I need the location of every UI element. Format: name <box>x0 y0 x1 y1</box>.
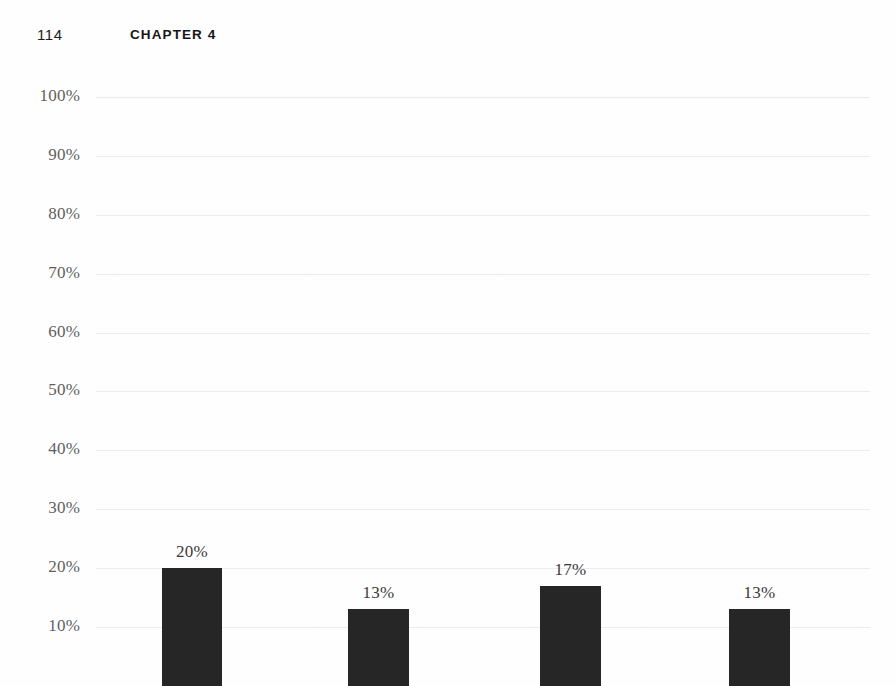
gridline <box>96 509 870 510</box>
bar-value-label: 17% <box>520 560 621 580</box>
bar-value-label: 13% <box>709 583 810 603</box>
gridline <box>96 333 870 334</box>
gridline <box>96 156 870 157</box>
y-axis-tick-label: 10% <box>18 616 80 636</box>
y-axis-tick-label: 80% <box>18 204 80 224</box>
bar <box>348 609 409 686</box>
y-axis-tick-label: 20% <box>18 557 80 577</box>
y-axis-tick-label: 90% <box>18 145 80 165</box>
y-axis-tick-label: 100% <box>18 86 80 106</box>
page-number: 114 <box>37 26 63 43</box>
bar-value-label: 20% <box>142 542 242 562</box>
running-head-chapter: CHAPTER 4 <box>130 27 216 42</box>
bar <box>162 568 222 686</box>
page-header: 114 CHAPTER 4 <box>0 0 896 62</box>
gridline <box>96 215 870 216</box>
bar <box>729 609 790 686</box>
y-axis-tick-label: 50% <box>18 380 80 400</box>
gridline <box>96 274 870 275</box>
bar-value-label: 13% <box>328 583 429 603</box>
y-axis-tick-label: 70% <box>18 263 80 283</box>
y-axis-tick-label: 30% <box>18 498 80 518</box>
y-axis-tick-label: 60% <box>18 322 80 342</box>
gridline <box>96 391 870 392</box>
y-axis-tick-label: 40% <box>18 439 80 459</box>
gridline <box>96 97 870 98</box>
bar <box>540 586 601 686</box>
bar-chart: 100%90%80%70%60%50%40%30%20%10% 20%13%17… <box>0 62 896 642</box>
gridline <box>96 450 870 451</box>
